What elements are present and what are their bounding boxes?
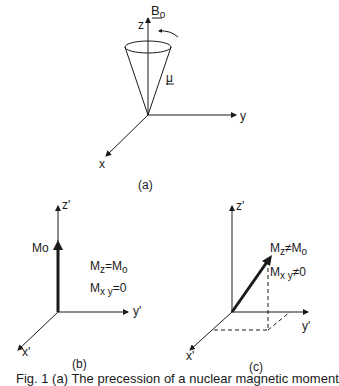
x-axis-c bbox=[190, 312, 232, 350]
axis-label-x: x bbox=[99, 158, 105, 170]
axis-label-x-prime-c: x' bbox=[186, 350, 194, 362]
panel-label-a: (a) bbox=[138, 178, 153, 192]
figure-caption: Fig. 1 (a) The precession of a nuclear m… bbox=[16, 371, 339, 386]
axis-label-z-prime-b: z' bbox=[62, 199, 70, 211]
equation-mz-not-equal-mo: Mz≠Mo bbox=[270, 242, 307, 258]
precession-arrow-icon bbox=[159, 31, 178, 37]
magnetization-vector-c bbox=[232, 262, 267, 312]
moment-label-mu: μ bbox=[166, 72, 173, 84]
axis-label-z-prime-c: z' bbox=[236, 200, 244, 212]
equation-mxy-not-zero: Mx y≠0 bbox=[270, 266, 306, 282]
equation-mxy-equals-zero: Mx y=0 bbox=[90, 282, 126, 298]
field-label-b0: Bo bbox=[151, 5, 165, 21]
axis-label-y: y bbox=[240, 110, 246, 122]
panel-a-diagram bbox=[106, 18, 236, 156]
equation-mz-equals-mo: Mz=Mo bbox=[90, 260, 128, 276]
projection-dashed-diagonal bbox=[268, 312, 290, 330]
axis-label-z: z bbox=[138, 19, 144, 31]
axis-label-y-prime-b: y' bbox=[133, 305, 141, 317]
axis-label-x-prime-b: x' bbox=[22, 346, 30, 358]
x-axis-a bbox=[106, 115, 148, 156]
panel-label-b: (b) bbox=[72, 357, 87, 371]
panel-b-diagram bbox=[18, 206, 128, 350]
axis-label-y-prime-c: y' bbox=[302, 320, 310, 332]
vector-label-mo: Mo bbox=[32, 242, 49, 254]
